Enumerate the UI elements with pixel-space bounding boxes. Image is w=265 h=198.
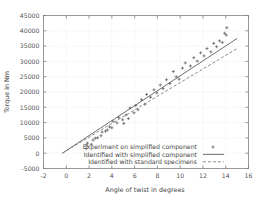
y-axis-title: Torque in Nm bbox=[3, 71, 11, 114]
x-tick-label: -2 bbox=[40, 172, 46, 179]
x-tick-label: 2 bbox=[87, 172, 91, 179]
y-tick-label: 25000 bbox=[20, 73, 40, 80]
y-tick-label: 20000 bbox=[20, 88, 40, 95]
y-tick-label: 35000 bbox=[20, 42, 40, 49]
x-tick-label: 10 bbox=[176, 172, 184, 179]
x-tick-label: 16 bbox=[245, 172, 253, 179]
y-tick-label: 10000 bbox=[20, 119, 40, 126]
y-tick-label: -5000 bbox=[22, 165, 40, 172]
y-tick-label: 5000 bbox=[24, 134, 40, 141]
x-tick-label: 8 bbox=[155, 172, 159, 179]
y-tick-label: 15000 bbox=[20, 104, 40, 111]
x-tick-label: 0 bbox=[64, 172, 68, 179]
y-tick-label: 30000 bbox=[20, 58, 40, 65]
torque-vs-angle-chart: -20246810121416-500005000100001500020000… bbox=[0, 0, 265, 198]
y-tick-label: 45000 bbox=[20, 12, 40, 19]
x-axis-title: Angle of twist in degrees bbox=[105, 186, 185, 194]
chart-container: -20246810121416-500005000100001500020000… bbox=[0, 0, 265, 198]
x-tick-label: 14 bbox=[222, 172, 230, 179]
x-tick-label: 6 bbox=[133, 172, 137, 179]
y-tick-label: 40000 bbox=[20, 27, 40, 34]
legend-label-2: Identified with standard specimens bbox=[88, 158, 197, 166]
x-tick-label: 12 bbox=[199, 172, 207, 179]
x-tick-label: 4 bbox=[110, 172, 114, 179]
y-tick-label: 0 bbox=[36, 150, 40, 157]
